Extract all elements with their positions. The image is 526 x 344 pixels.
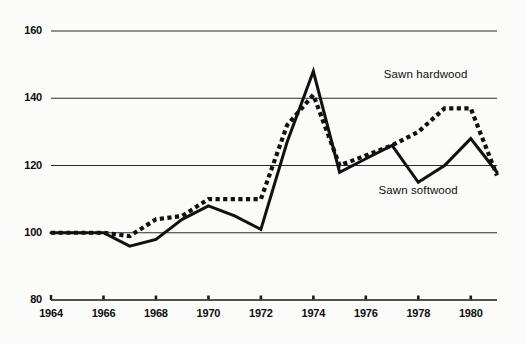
- y-axis-label-80: 80: [8, 293, 42, 305]
- x-axis-label-1978: 1978: [395, 307, 441, 319]
- x-axis-label-1966: 1966: [80, 307, 126, 319]
- chart-plot-area: [0, 0, 526, 344]
- x-axis-label-1968: 1968: [133, 307, 179, 319]
- gridlines-group: [51, 31, 497, 233]
- line-chart-figure: 16014012010080 1964196619681970197219741…: [0, 0, 526, 344]
- x-axis-label-1972: 1972: [238, 307, 284, 319]
- series-annotation-sawn-softwood: Sawn softwood: [379, 184, 458, 196]
- series-annotation-sawn-hardwood: Sawn hardwood: [384, 68, 468, 80]
- x-axis-label-1964: 1964: [28, 307, 74, 319]
- data-series-group: [51, 71, 497, 246]
- x-axis-label-1970: 1970: [185, 307, 231, 319]
- x-axis-line-group: [51, 295, 497, 300]
- x-axis-label-1974: 1974: [290, 307, 336, 319]
- y-axis-label-100: 100: [8, 226, 42, 238]
- y-axis-label-160: 160: [8, 24, 42, 36]
- y-axis-label-120: 120: [8, 159, 42, 171]
- y-axis-label-140: 140: [8, 91, 42, 103]
- x-axis-label-1976: 1976: [343, 307, 389, 319]
- x-axis-label-1980: 1980: [448, 307, 494, 319]
- x-axis-ticks-group: [103, 296, 470, 300]
